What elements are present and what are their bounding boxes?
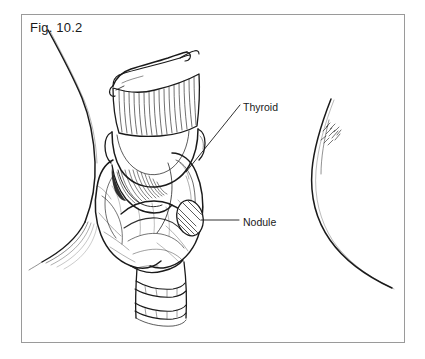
figure-number-label: Fig. 10.2: [30, 20, 82, 35]
figure-border: [21, 14, 405, 343]
figure-illustration: Fig. 10.2 Thyroid Nodule: [0, 0, 425, 359]
callout-label-thyroid: Thyroid: [243, 101, 278, 113]
callout-label-nodule: Nodule: [243, 216, 276, 228]
